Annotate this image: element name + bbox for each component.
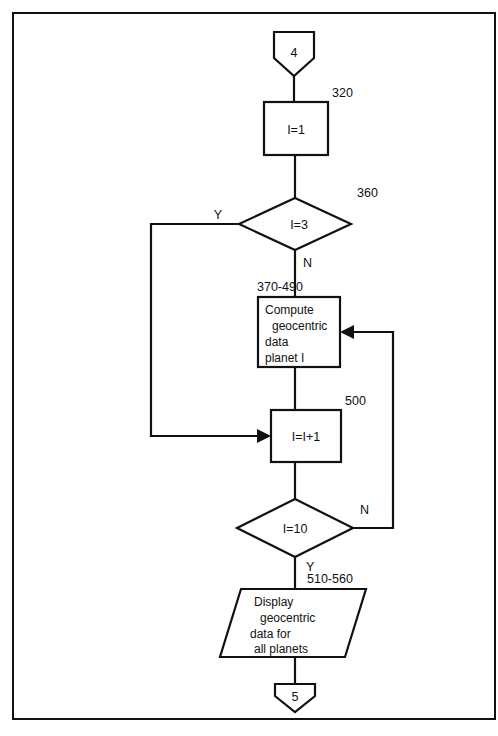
node-increment-counter[interactable]: I=I+1 500: [271, 394, 366, 462]
edge-decision2-no-line: [353, 332, 393, 528]
init-loop-line-number: 320: [332, 86, 353, 100]
display-results-line-2: geocentric: [260, 611, 315, 625]
compute-geocentric-line-number: 370-490: [257, 280, 303, 294]
compute-geocentric-line-1: Compute: [265, 303, 314, 317]
diagram-frame: 4 I=1 320 I=3 360 Y N: [12, 12, 496, 720]
compute-geocentric-line-4: planet I: [265, 351, 304, 365]
page-root: 4 I=1 320 I=3 360 Y N: [0, 0, 498, 736]
node-connector-out[interactable]: 5: [275, 684, 315, 712]
edge-decision2-no-arrowhead: [340, 325, 354, 339]
edge-decision1-yes-loop: [151, 224, 271, 443]
connector-out-label: 5: [292, 690, 299, 704]
node-display-results[interactable]: 510-560 Display geocentric data for all …: [220, 572, 366, 657]
compute-geocentric-line-2: geocentric: [272, 319, 327, 333]
edge-decision2-no-loop: [340, 325, 393, 528]
init-loop-label: I=1: [287, 123, 305, 137]
decision-skip-earth-label: I=3: [290, 218, 308, 232]
display-results-line-4: all planets: [254, 642, 308, 656]
compute-geocentric-line-3: data: [265, 335, 289, 349]
connector-in-label: 4: [291, 46, 298, 60]
display-results-line-3: data for: [250, 627, 291, 641]
increment-counter-label: I=I+1: [292, 430, 321, 444]
decision-all-planets-label: I=10: [283, 522, 308, 536]
decision-skip-earth-yes-label: Y: [214, 208, 223, 222]
decision-skip-earth-line-number: 360: [357, 186, 378, 200]
decision-skip-earth-no-label: N: [303, 256, 312, 270]
increment-counter-line-number: 500: [345, 394, 366, 408]
edge-decision1-yes-line: [151, 224, 257, 436]
node-init-loop[interactable]: I=1 320: [264, 86, 353, 155]
node-decision-all-planets[interactable]: I=10 N Y: [237, 499, 369, 574]
node-connector-in[interactable]: 4: [274, 32, 314, 76]
node-compute-geocentric[interactable]: 370-490 Compute geocentric data planet I: [257, 280, 340, 367]
display-results-line-1: Display: [254, 595, 293, 609]
display-results-line-number: 510-560: [307, 572, 353, 586]
edge-decision1-yes-arrowhead: [257, 429, 271, 443]
decision-all-planets-no-label: N: [360, 503, 369, 517]
flowchart-canvas: 4 I=1 320 I=3 360 Y N: [14, 14, 494, 718]
